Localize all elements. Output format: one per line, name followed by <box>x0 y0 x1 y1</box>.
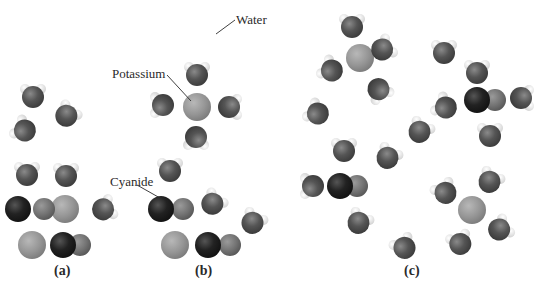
water-molecule <box>362 73 397 107</box>
water-molecule <box>428 90 462 125</box>
water-molecule <box>20 84 46 108</box>
water-molecule <box>431 40 457 64</box>
panel-caption-a: (a) <box>54 263 70 279</box>
panel-caption-b: (b) <box>195 263 212 279</box>
cyanide-ion <box>5 196 55 222</box>
water-molecule <box>150 92 174 118</box>
potassium-ion <box>18 231 46 259</box>
potassium-ion <box>458 196 486 224</box>
water-molecule <box>387 230 422 264</box>
diagram-canvas <box>0 0 543 293</box>
water-molecule <box>183 126 209 150</box>
water-molecule <box>483 212 517 247</box>
water-molecule <box>14 162 40 186</box>
cyanide-ion <box>195 232 241 258</box>
water-leader-line <box>216 20 235 34</box>
water-molecule <box>236 205 271 239</box>
potassium-ion <box>51 195 79 223</box>
water-molecule <box>49 97 84 132</box>
cyanide-ion <box>464 87 506 113</box>
potassium-label: Potassium <box>112 66 165 82</box>
water-molecule <box>218 94 242 120</box>
water-molecule <box>331 138 357 162</box>
panel-b <box>148 62 270 259</box>
water-molecule <box>403 114 438 148</box>
cyanide-ion <box>327 173 368 199</box>
water-molecule <box>300 96 334 131</box>
water-molecule <box>339 14 365 38</box>
water-molecule <box>184 62 210 86</box>
water-molecule <box>464 60 490 84</box>
water-molecule <box>444 227 477 258</box>
water-molecule <box>300 173 324 199</box>
cyanide-ion <box>50 232 91 258</box>
water-label: Water <box>236 12 267 28</box>
water-molecule <box>428 175 463 209</box>
water-molecule <box>314 53 348 88</box>
water-molecule <box>473 164 508 198</box>
potassium-ion <box>161 231 189 259</box>
water-molecule <box>510 85 534 111</box>
panel-caption-c: (c) <box>404 263 420 279</box>
panel-c <box>300 14 534 264</box>
cyanide-ion <box>148 196 194 222</box>
cyanide-label: Cyanide <box>110 174 153 190</box>
panel-a <box>5 84 120 259</box>
water-molecule <box>371 140 406 174</box>
water-molecule <box>157 158 183 182</box>
water-molecule <box>53 163 79 187</box>
water-molecule <box>477 123 503 147</box>
water-molecule <box>195 185 230 220</box>
water-molecule <box>342 205 377 239</box>
water-molecule <box>7 113 41 148</box>
potassium-ion <box>346 44 374 72</box>
water-molecule <box>88 193 119 226</box>
